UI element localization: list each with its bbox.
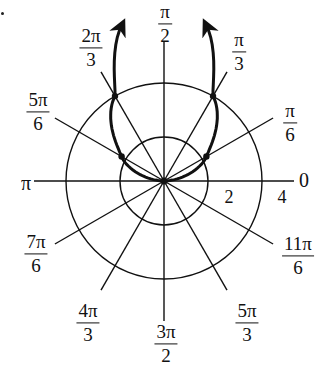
angle-label-3pi2: 3π2	[154, 322, 177, 365]
pole-point	[161, 178, 168, 185]
angle-label-pi: π	[21, 173, 31, 193]
angle-label-2pi3: 2π3	[79, 26, 102, 69]
angle-label-11pi6: 11π6	[282, 234, 314, 277]
angle-label-pi2: π2	[158, 2, 172, 45]
angle-label-pi6: π6	[283, 101, 297, 144]
angle-label-4pi3: 4π3	[76, 301, 99, 344]
marked-point-120deg	[112, 93, 118, 99]
marked-point-60deg	[210, 93, 216, 99]
radial-label-2: 2	[225, 188, 234, 206]
angle-label-7pi6: 7π6	[24, 232, 47, 275]
radial-label-4: 4	[278, 188, 287, 206]
marked-point-30deg	[203, 153, 209, 159]
angle-label-pi3: π3	[232, 30, 246, 73]
angle-label-0: 0	[299, 170, 309, 190]
angle-label-5pi6: 5π6	[26, 90, 49, 133]
marked-point-150deg	[118, 153, 124, 159]
angle-label-5pi3: 5π3	[235, 301, 258, 344]
